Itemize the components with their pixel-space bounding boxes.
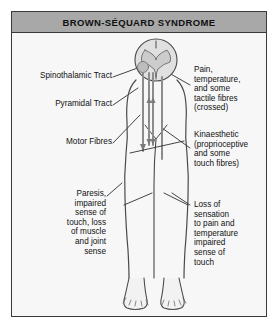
label-loss-of-sensation: Loss of sensation to pain and temperatur…: [194, 200, 262, 267]
label-motor-fibres: Motor Fibres: [2, 137, 112, 147]
feet: [123, 278, 186, 310]
spinal-cord-cross-section: [135, 39, 177, 81]
page-title: BROWN-SÉQUARD SYNDROME: [63, 17, 216, 28]
label-kinaesthetic: Kinaesthetic (proprioceptive and some to…: [194, 130, 270, 168]
reference-strokes: [124, 141, 188, 205]
diagram-frame: BROWN-SÉQUARD SYNDROME: [11, 11, 267, 317]
label-pain-temperature: Pain, temperature, and some tactile fibr…: [194, 65, 268, 113]
body-outline: [125, 80, 189, 278]
label-paresis: Paresis, impaired sense of touch, loss o…: [42, 189, 106, 256]
label-pyramidal-tract: Pyramidal Tract: [2, 99, 112, 109]
ascending-tract-arrow: [147, 97, 156, 103]
label-spinothalamic-tract: Spinothalamic Tract: [2, 71, 112, 81]
leader-lines-right: [155, 65, 190, 205]
diagram-canvas: Spinothalamic Tract Pyramidal Tract Moto…: [12, 33, 266, 317]
title-bar: BROWN-SÉQUARD SYNDROME: [12, 12, 266, 33]
